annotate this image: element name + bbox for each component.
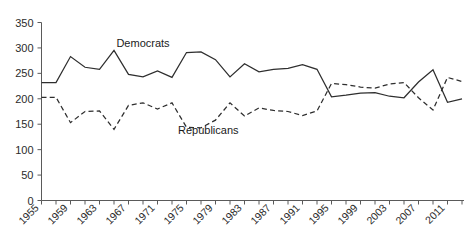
x-tick-label-group: 1967 (103, 201, 128, 226)
x-tick-label: 2003 (364, 201, 389, 226)
x-tick-label: 1971 (132, 201, 157, 226)
x-tick-label: 1975 (161, 201, 186, 226)
x-tick-label: 1999 (335, 201, 360, 226)
x-tick-label-group: 1963 (74, 201, 99, 226)
x-tick-label: 2011 (422, 201, 447, 226)
x-tick-label-group: 1999 (335, 201, 360, 226)
x-tick-label-group: 2003 (364, 201, 389, 226)
x-tick-label-group: 1959 (45, 201, 70, 226)
x-tick-label-group: 1983 (219, 201, 244, 226)
x-tick-label-group: 1979 (190, 201, 215, 226)
x-tick-label-group: 2011 (422, 201, 447, 226)
x-tick-label: 1959 (45, 201, 70, 226)
y-tick-label: 100 (15, 144, 33, 156)
x-tick-label: 2007 (393, 201, 418, 226)
y-tick-label: 150 (15, 118, 33, 130)
x-tick-label: 1979 (190, 201, 215, 226)
y-tick-label: 250 (15, 67, 33, 79)
x-tick-label-group: 1991 (277, 201, 302, 226)
x-tick-label: 1991 (277, 201, 302, 226)
series-line-republicans (42, 77, 463, 129)
x-tick-label: 1995 (306, 201, 331, 226)
series-line-democrats (42, 50, 463, 102)
x-tick-label-group: 1971 (132, 201, 157, 226)
x-tick-label-group: 1975 (161, 201, 186, 226)
y-tick-label: 50 (21, 169, 33, 181)
y-tick-label: 200 (15, 93, 33, 105)
x-tick-label: 1967 (103, 201, 128, 226)
series-label-republicans: Republicans (178, 124, 239, 136)
x-tick-label: 1955 (16, 201, 41, 226)
x-tick-label-group: 1995 (306, 201, 331, 226)
x-tick-label-group: 1955 (16, 201, 41, 226)
y-tick-label: 300 (15, 42, 33, 54)
series-label-democrats: Democrats (116, 37, 170, 49)
line-chart: 0501001502002503003501955195919631967197… (0, 0, 473, 246)
x-tick-label: 1987 (248, 201, 273, 226)
x-tick-label-group: 1987 (248, 201, 273, 226)
chart-canvas: 0501001502002503003501955195919631967197… (0, 0, 473, 246)
x-tick-label-group: 2007 (393, 201, 418, 226)
y-tick-label: 350 (15, 17, 33, 29)
x-tick-label: 1983 (219, 201, 244, 226)
x-tick-label: 1963 (74, 201, 99, 226)
